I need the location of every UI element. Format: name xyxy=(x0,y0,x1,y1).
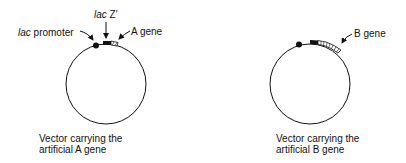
b-gene-block xyxy=(318,41,341,54)
a-gene-block xyxy=(111,41,118,46)
lac-z-label: lac Z′ xyxy=(94,9,118,20)
lac-z-suffix: Z′ xyxy=(107,9,118,20)
caption-b-line2: artificial B gene xyxy=(276,144,359,155)
plasmid-circle-a xyxy=(66,44,146,124)
caption-a-line1: Vector carrying the xyxy=(39,133,122,144)
caption-b-line1: Vector carrying the xyxy=(276,133,359,144)
caption-a: Vector carrying the artificial A gene xyxy=(39,133,122,155)
lac-promoter-label: lac promoter xyxy=(18,27,74,38)
lac-z-block-b xyxy=(310,40,318,45)
vector-a xyxy=(66,22,146,124)
lac-promoter-dot-b xyxy=(296,42,302,48)
b-gene-arrow xyxy=(342,34,352,43)
lac-z-italic: lac xyxy=(94,9,107,20)
vector-b xyxy=(270,34,352,124)
caption-b: Vector carrying the artificial B gene xyxy=(276,133,359,155)
lac-promoter-dot-a xyxy=(93,43,99,49)
a-gene-arrow xyxy=(119,31,130,39)
a-gene-label: A gene xyxy=(131,26,162,37)
promoter-arrow xyxy=(80,31,93,40)
lac-promoter-suffix: promoter xyxy=(31,27,74,38)
lac-z-block-a xyxy=(103,41,111,45)
b-gene-label: B gene xyxy=(354,28,386,39)
plasmid-circle-b xyxy=(270,44,350,124)
caption-a-line2: artificial A gene xyxy=(39,144,122,155)
lac-promoter-italic: lac xyxy=(18,27,31,38)
